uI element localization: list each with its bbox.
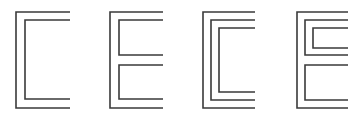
bracket-line [25, 20, 70, 99]
diagram-svg [0, 0, 364, 117]
figure-double-e [110, 12, 163, 108]
bracket-line [305, 20, 348, 55]
diagram-canvas [0, 0, 364, 117]
bracket-line [16, 12, 70, 108]
bracket-line [211, 20, 255, 100]
bracket-line [119, 65, 163, 99]
figure-double-c [16, 12, 70, 108]
bracket-line [219, 28, 255, 92]
figure-nested-e [297, 12, 348, 108]
figure-triple-c [203, 12, 255, 108]
bracket-line [110, 12, 163, 108]
bracket-line [119, 20, 163, 55]
bracket-line [313, 28, 348, 48]
bracket-line [305, 65, 348, 100]
